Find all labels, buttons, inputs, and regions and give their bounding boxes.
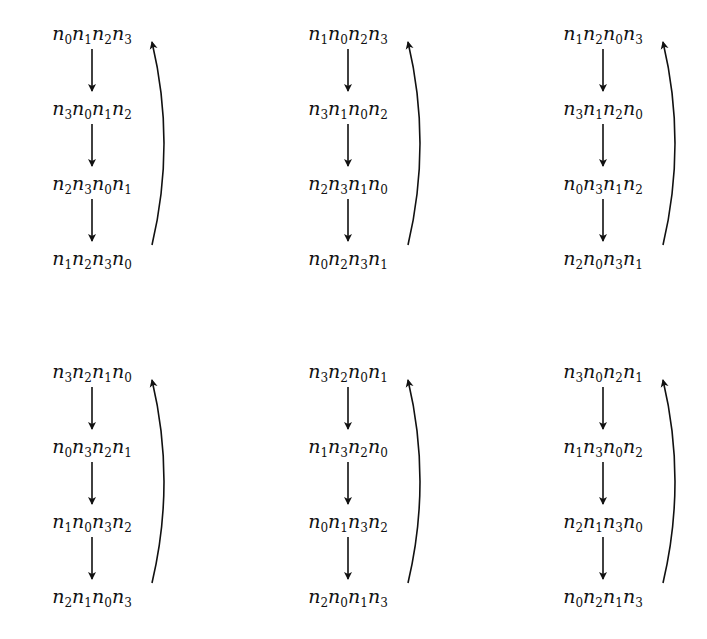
cycle-2: n1n0n2n3n3n1n0n2n2n3n1n0n0n2n3n1 (292, 22, 492, 282)
cycle-arrows (547, 360, 707, 620)
return-arrow-icon (408, 380, 420, 583)
return-arrow-icon (663, 380, 675, 583)
return-arrow-icon (408, 42, 420, 245)
cycle-4: n3n2n1n0n0n3n2n1n1n0n3n2n2n1n0n3 (36, 360, 236, 620)
cycle-arrows (547, 22, 707, 282)
cycle-3: n1n2n0n3n3n1n2n0n0n3n1n2n2n0n3n1 (547, 22, 707, 282)
cycle-arrows (292, 22, 492, 282)
cycle-5: n3n2n0n1n1n3n2n0n0n1n3n2n2n0n1n3 (292, 360, 492, 620)
cycle-arrows (36, 360, 236, 620)
cycle-arrows (292, 360, 492, 620)
return-arrow-icon (152, 42, 164, 245)
return-arrow-icon (152, 380, 164, 583)
return-arrow-icon (663, 42, 675, 245)
cycle-arrows (36, 22, 236, 282)
cycle-6: n3n0n2n1n1n3n0n2n2n1n3n0n0n2n1n3 (547, 360, 707, 620)
cycle-1: n0n1n2n3n3n0n1n2n2n3n0n1n1n2n3n0 (36, 22, 236, 282)
